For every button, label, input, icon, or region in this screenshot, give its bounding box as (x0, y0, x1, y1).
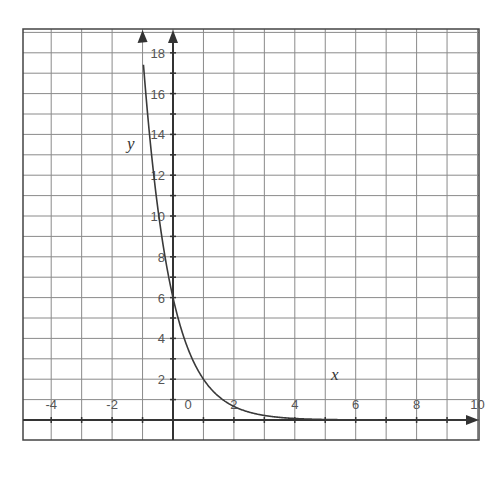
y-tick-label: 16 (151, 87, 165, 102)
grid-lines (23, 29, 479, 440)
y-tick-label: 2 (158, 372, 165, 387)
plot-border (23, 29, 479, 440)
x-tick-label: 6 (352, 397, 359, 412)
x-tick-label: -2 (106, 397, 118, 412)
y-tick-label: 18 (151, 46, 165, 61)
x-tick-label: -4 (45, 397, 57, 412)
x-tick-label: 0 (184, 397, 191, 412)
y-tick-label: 4 (158, 331, 165, 346)
y-tick-label: 14 (151, 127, 165, 142)
y-axis-label: y (125, 134, 135, 153)
axes (23, 30, 479, 440)
x-axis-label: x (330, 365, 339, 384)
curve-line (143, 65, 469, 420)
x-tick-label: 10 (470, 397, 484, 412)
x-tick-label: 4 (291, 397, 298, 412)
tick-labels: -4-2024681024681012141618 (45, 46, 484, 412)
y-tick-label: 6 (158, 291, 165, 306)
x-tick-label: 8 (413, 397, 420, 412)
function-graph: -4-2024681024681012141618 x y (0, 0, 490, 477)
